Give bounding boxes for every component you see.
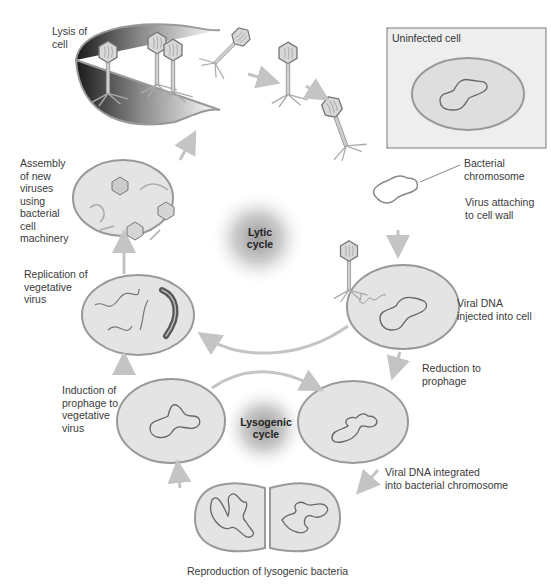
label-replication: Replication of vegetative virus bbox=[24, 268, 88, 306]
label-lysis: Lysis of cell bbox=[52, 25, 87, 50]
released-phage bbox=[272, 42, 308, 107]
label-reproduction: Reproduction of lysogenic bacteria bbox=[187, 565, 348, 578]
infected-cell bbox=[334, 241, 459, 349]
uninfected-cell-inset bbox=[387, 28, 546, 148]
label-virus-attaching: Virus attaching to cell wall bbox=[465, 196, 534, 221]
assembly-cell bbox=[73, 160, 174, 240]
label-reduction: Reduction to prophage bbox=[422, 362, 481, 387]
replication-cell bbox=[82, 275, 194, 355]
label-induction: Induction of prophage to vegetative viru… bbox=[62, 384, 118, 434]
dividing-lysogenic-cells bbox=[195, 483, 340, 551]
label-viral-dna-integrated: Viral DNA integrated into bacterial chro… bbox=[385, 466, 508, 491]
lysogenic-cycle-label: Lysogenic cycle bbox=[234, 416, 298, 440]
label-bacterial-chromosome: Bacterial chromosome bbox=[464, 157, 525, 182]
inset-title: Uninfected cell bbox=[392, 32, 461, 44]
label-viral-dna-injected: Viral DNA injected into cell bbox=[457, 297, 532, 322]
lysing-cell bbox=[76, 20, 260, 124]
lytic-cycle-label: Lytic cycle bbox=[238, 226, 282, 250]
induction-cell bbox=[117, 379, 225, 463]
bacterial-chromosome-shape bbox=[374, 176, 418, 203]
prophage-cell bbox=[298, 381, 408, 463]
released-phage bbox=[313, 90, 369, 163]
label-assembly: Assembly of new viruses using bacterial … bbox=[20, 157, 68, 245]
